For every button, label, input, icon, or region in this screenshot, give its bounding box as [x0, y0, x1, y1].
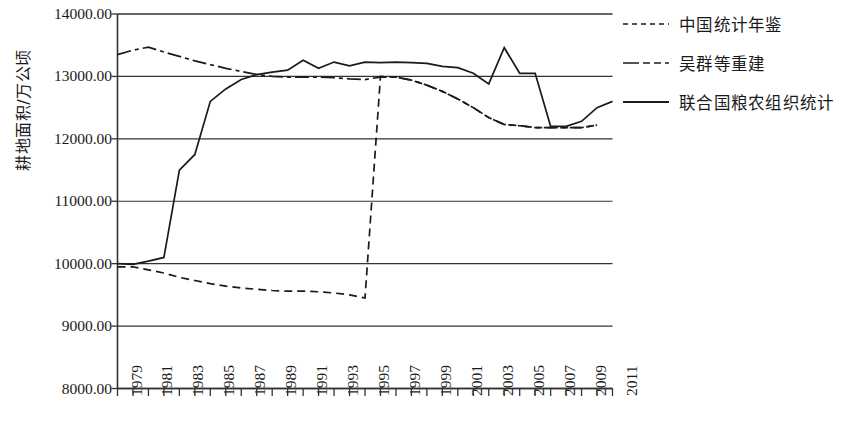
legend-swatch-dashdot-icon: [622, 56, 670, 70]
chart-legend: 中国统计年鉴 吴群等重建 联合国粮农组织统计: [622, 8, 854, 125]
legend-item-1: 吴群等重建: [622, 47, 854, 79]
legend-label-1: 吴群等重建: [679, 51, 766, 75]
legend-item-0: 中国统计年鉴: [622, 8, 854, 40]
legend-swatch-solid-icon: [622, 95, 670, 109]
legend-item-2: 联合国粮农组织统计: [622, 86, 854, 118]
series-line-1: [118, 47, 598, 128]
legend-label-2: 联合国粮农组织统计: [679, 90, 835, 114]
legend-swatch-dashed-icon: [622, 17, 670, 31]
chart-figure: 耕地面积/万公顷 8000.009000.0010000.0011000.001…: [0, 0, 854, 441]
series-line-0: [118, 76, 598, 298]
legend-label-0: 中国统计年鉴: [679, 12, 783, 36]
